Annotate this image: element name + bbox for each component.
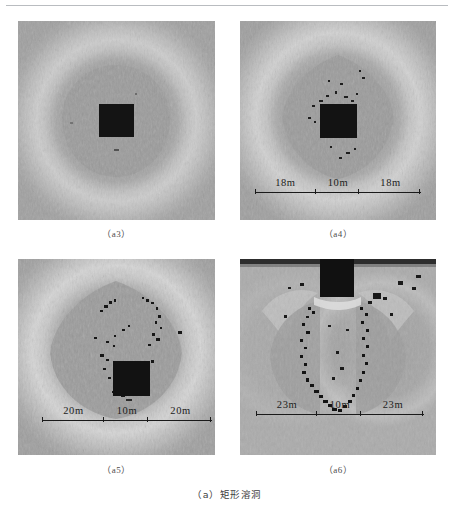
panel-a5 [18, 259, 215, 455]
panel-a4-label: （a4） [240, 227, 436, 240]
page-top-rule [6, 5, 448, 6]
figure-caption: （a）矩形溶洞 [0, 487, 454, 501]
panel-a6-label: （a6） [240, 463, 436, 476]
figure-page: （a3） [0, 0, 454, 517]
panel-a3-label: （a3） [18, 227, 215, 240]
panel-a4 [240, 21, 436, 220]
panel-a5-label: （a5） [18, 463, 215, 476]
panel-a3 [18, 21, 215, 220]
panel-a6 [240, 259, 436, 455]
